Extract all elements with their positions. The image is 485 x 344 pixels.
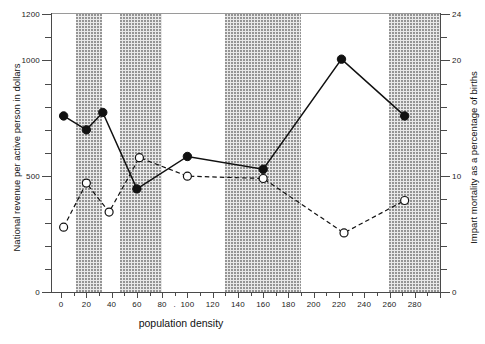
- x-tick-label: 120: [206, 300, 220, 309]
- data-point: [82, 179, 90, 187]
- x-tick: [213, 293, 214, 298]
- x-tick: [440, 293, 441, 298]
- x-tick: [263, 293, 264, 298]
- y-left-tick: [42, 60, 51, 61]
- x-tick: [427, 293, 428, 296]
- y-left-tick: [45, 199, 51, 200]
- x-tick: [137, 293, 138, 298]
- axis-left-line: [51, 13, 52, 293]
- x-tick-label: 0: [59, 300, 64, 309]
- data-point: [99, 108, 107, 116]
- x-tick: [352, 293, 353, 296]
- y-right-tick: [441, 223, 447, 224]
- x-tick: [415, 293, 416, 298]
- y-left-tick-label: 0: [35, 288, 40, 297]
- x-tick: [112, 293, 113, 298]
- data-point: [259, 174, 267, 182]
- y-axis-right-title: Impart mortality as a percentage of birt…: [468, 53, 479, 263]
- x-tick-label: 180: [281, 300, 295, 309]
- chart-figure: 050010001200 0102024 0204060801001201401…: [0, 0, 485, 344]
- x-tick: [187, 293, 188, 298]
- y-left-tick: [45, 153, 51, 154]
- y-right-tick: [441, 37, 447, 38]
- x-tick: [238, 293, 239, 298]
- y-left-tick: [42, 14, 51, 15]
- x-tick: [314, 293, 315, 298]
- data-point: [183, 172, 191, 180]
- data-point: [82, 126, 90, 134]
- y-right-tick: [441, 14, 450, 15]
- x-tick-label: 260: [383, 300, 397, 309]
- y-right-tick-label: 10: [452, 172, 461, 181]
- y-left-tick-label: 1000: [21, 56, 40, 65]
- x-tick-label-artifact: .: [174, 300, 176, 309]
- y-right-tick: [441, 107, 447, 108]
- y-right-tick: [441, 153, 447, 154]
- x-tick-label: 220: [332, 300, 346, 309]
- data-point: [401, 196, 409, 204]
- x-tick: [162, 293, 163, 298]
- y-axis-left-title: National revenue per active person in do…: [11, 58, 22, 258]
- y-left-tick-label: 500: [26, 172, 40, 181]
- axis-top-rule: [51, 13, 441, 14]
- x-tick-label: 280: [408, 300, 422, 309]
- series-line-2: [64, 158, 405, 233]
- x-tick-label: 20: [82, 300, 91, 309]
- y-right-tick-label: 0: [452, 288, 457, 297]
- y-right-tick-label: 20: [452, 56, 461, 65]
- y-left-tick: [45, 246, 51, 247]
- data-point: [59, 112, 67, 120]
- y-right-tick: [441, 292, 450, 293]
- x-tick: [150, 293, 151, 296]
- x-tick: [99, 293, 100, 296]
- y-left-tick: [45, 107, 51, 108]
- data-point: [60, 223, 68, 231]
- y-left-tick: [45, 84, 51, 85]
- x-tick-label: 200: [307, 300, 321, 309]
- y-right-tick: [441, 246, 447, 247]
- x-tick-label: 140: [231, 300, 245, 309]
- x-tick: [61, 293, 62, 298]
- x-tick-label: 80: [157, 300, 166, 309]
- data-series-layer: [51, 14, 440, 292]
- x-tick: [390, 293, 391, 298]
- y-right-tick: [441, 199, 447, 200]
- data-point: [259, 165, 267, 173]
- y-left-tick: [45, 269, 51, 270]
- y-right-tick: [441, 130, 447, 131]
- x-tick: [377, 293, 378, 296]
- x-tick-label: 240: [357, 300, 371, 309]
- x-tick: [86, 293, 87, 298]
- y-left-tick: [45, 223, 51, 224]
- x-tick: [402, 293, 403, 296]
- series-line-1: [64, 59, 405, 189]
- y-right-tick: [441, 84, 447, 85]
- y-left-tick: [42, 292, 51, 293]
- y-left-tick: [42, 176, 51, 177]
- y-right-tick: [441, 269, 447, 270]
- x-tick: [251, 293, 252, 296]
- x-tick-label: 40: [107, 300, 116, 309]
- x-tick: [301, 293, 302, 296]
- y-left-tick-label: 1200: [21, 10, 40, 19]
- x-tick-label: 100: [180, 300, 194, 309]
- data-point: [133, 185, 141, 193]
- y-right-tick: [441, 60, 450, 61]
- x-tick-label: 160: [256, 300, 270, 309]
- x-tick: [339, 293, 340, 298]
- data-point: [135, 154, 143, 162]
- x-tick: [74, 293, 75, 296]
- y-left-tick: [45, 37, 51, 38]
- data-point: [340, 229, 348, 237]
- x-tick: [225, 293, 226, 296]
- x-tick: [364, 293, 365, 298]
- y-left-tick: [45, 130, 51, 131]
- plot-area: [51, 14, 440, 292]
- x-tick-label: 60: [132, 300, 141, 309]
- y-right-tick: [441, 176, 450, 177]
- x-tick: [326, 293, 327, 296]
- data-point: [183, 152, 191, 160]
- x-axis-title: population density: [51, 317, 311, 329]
- x-tick: [124, 293, 125, 296]
- x-tick: [276, 293, 277, 296]
